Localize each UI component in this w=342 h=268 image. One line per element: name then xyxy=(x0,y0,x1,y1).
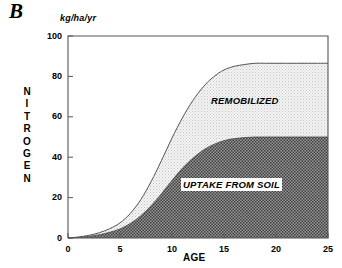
series-areas xyxy=(68,63,328,238)
series-label-remobilized: REMOBILIZED xyxy=(211,95,279,106)
figure-panel-b: B kg/ha/yr NITROGEN AGE 020406080100 051… xyxy=(0,0,342,268)
series-label-uptake: UPTAKE FROM SOIL xyxy=(181,178,282,191)
plot-area xyxy=(0,0,342,268)
y-tick-marks xyxy=(68,36,73,238)
